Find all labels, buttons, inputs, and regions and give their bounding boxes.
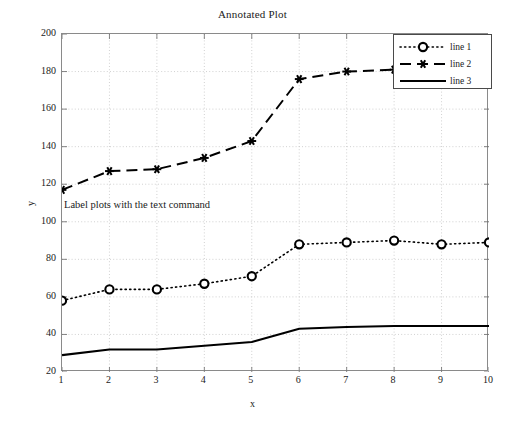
legend-item-2[interactable]: line 2 <box>394 55 493 73</box>
legend-label: line 2 <box>450 58 471 70</box>
y-tick-label: 120 <box>22 178 56 188</box>
x-tick-label: 10 <box>476 375 500 385</box>
legend-sample-icon <box>398 72 448 90</box>
data-point-marker <box>248 272 256 280</box>
y-tick-label: 40 <box>22 328 56 338</box>
legend-box[interactable]: line 1line 2line 3 <box>393 34 492 89</box>
y-tick-label: 180 <box>22 66 56 76</box>
x-axis-label: x <box>0 398 505 409</box>
legend-item-3[interactable]: line 3 <box>394 72 493 90</box>
y-axis-label: y <box>25 194 36 214</box>
y-tick-label: 160 <box>22 103 56 113</box>
data-point-marker <box>295 240 303 248</box>
data-point-marker <box>153 285 161 293</box>
y-tick-label: 60 <box>22 291 56 301</box>
x-tick-label: 7 <box>334 375 358 385</box>
figure-canvas: Annotated Plot y x 204060801001201401601… <box>0 0 505 422</box>
y-tick-label: 100 <box>22 216 56 226</box>
data-point-marker <box>200 280 208 288</box>
y-tick-label: 200 <box>22 28 56 38</box>
data-point-marker <box>390 236 398 244</box>
x-tick-label: 6 <box>286 375 310 385</box>
x-tick-label: 3 <box>144 375 168 385</box>
x-tick-label: 4 <box>191 375 215 385</box>
series-1 <box>62 236 489 304</box>
legend-item-1[interactable]: line 1 <box>394 38 493 56</box>
legend-label: line 3 <box>450 75 471 87</box>
data-point-marker <box>105 285 113 293</box>
legend-label: line 1 <box>450 41 471 53</box>
x-tick-label: 9 <box>429 375 453 385</box>
y-tick-label: 80 <box>22 253 56 263</box>
x-tick-label: 1 <box>49 375 73 385</box>
legend-sample-icon <box>398 55 448 73</box>
legend-sample-icon <box>398 38 448 56</box>
y-tick-label: 140 <box>22 141 56 151</box>
x-tick-label: 8 <box>381 375 405 385</box>
data-point-marker <box>62 297 66 305</box>
data-point-marker <box>485 238 489 246</box>
x-tick-label: 2 <box>96 375 120 385</box>
x-tick-label: 5 <box>239 375 263 385</box>
data-point-marker <box>437 240 445 248</box>
data-point-marker <box>343 238 351 246</box>
chart-title: Annotated Plot <box>0 8 505 20</box>
series-3 <box>62 326 489 355</box>
text-annotation: Label plots with the text command <box>64 199 210 210</box>
